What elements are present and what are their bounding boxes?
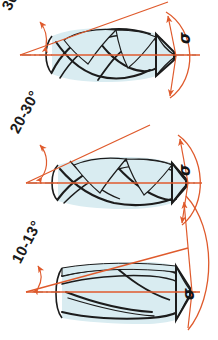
technical-drawing-sheet: 30-40 20-30° 10-13° σ σ σ [0, 0, 218, 340]
point-angle-label-3: σ [180, 288, 198, 300]
point-angle-label-1: σ [176, 32, 194, 44]
point-angle-label-2: σ [176, 164, 194, 176]
drill-body [56, 262, 192, 324]
